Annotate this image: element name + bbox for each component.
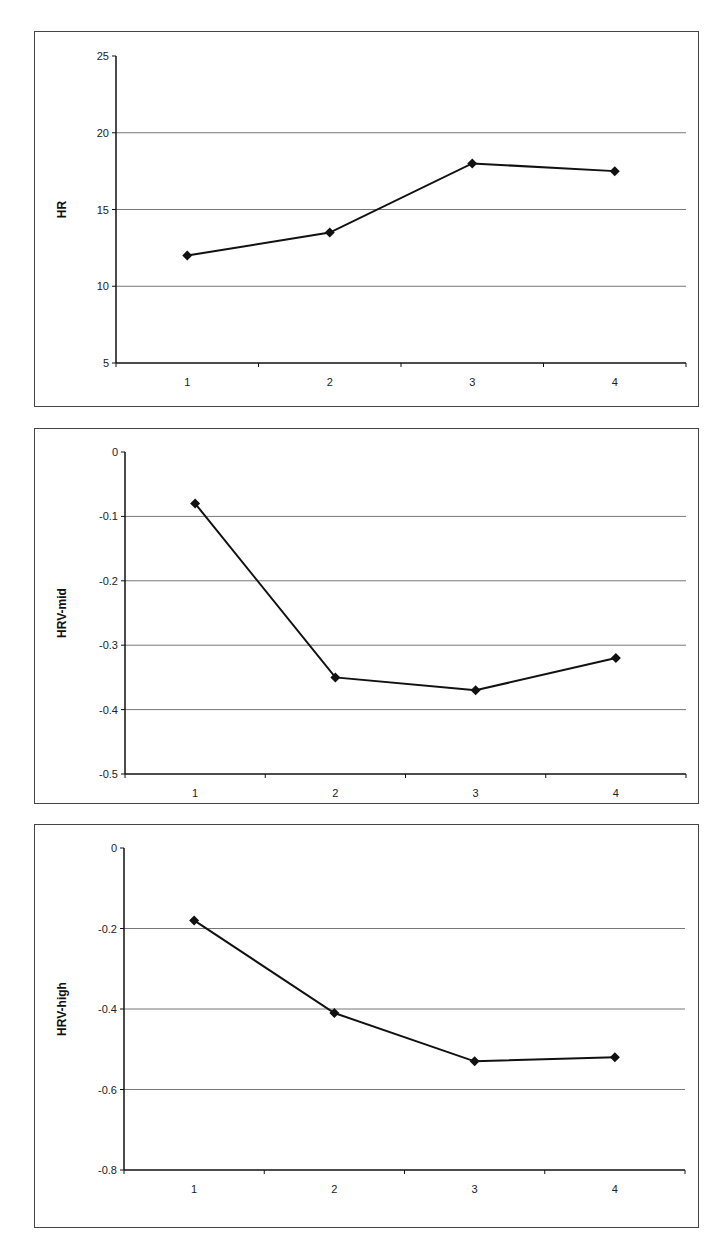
y-tick-label: -0.2 <box>99 575 118 587</box>
diamond-marker-icon <box>610 166 620 176</box>
y-tick-label: -0.4 <box>99 704 118 716</box>
diamond-marker-icon <box>325 228 335 238</box>
y-tick-label: 10 <box>97 280 109 292</box>
chart-hrv-high: -0.8-0.6-0.4-0.201234HRV-high <box>35 825 700 1229</box>
x-tick-label: 2 <box>332 787 338 799</box>
chart-hrv-mid: -0.5-0.4-0.3-0.2-0.101234HRV-mid <box>35 429 700 805</box>
y-tick-label: -0.2 <box>98 923 117 935</box>
x-tick-label: 1 <box>184 376 190 388</box>
y-tick-label: 25 <box>97 50 109 62</box>
y-tick-label: -0.3 <box>99 639 118 651</box>
chart-hrv-high-frame: -0.8-0.6-0.4-0.201234HRV-high <box>34 824 699 1228</box>
y-tick-label: -0.4 <box>98 1003 117 1015</box>
x-tick-label: 3 <box>472 1183 478 1195</box>
y-axis-label: HR <box>55 201 69 219</box>
diamond-marker-icon <box>471 685 481 695</box>
x-tick-label: 1 <box>191 1183 197 1195</box>
x-tick-label: 1 <box>192 787 198 799</box>
x-tick-label: 3 <box>469 376 475 388</box>
chart-hr-frame: 5101520251234HR <box>34 31 699 407</box>
series-line <box>194 920 615 1061</box>
chart-hr: 5101520251234HR <box>35 32 700 408</box>
x-tick-label: 4 <box>612 376 618 388</box>
y-tick-label: 5 <box>103 357 109 369</box>
y-tick-label: 0 <box>111 842 117 854</box>
diamond-marker-icon <box>470 1056 480 1066</box>
x-tick-label: 4 <box>613 787 619 799</box>
x-tick-label: 4 <box>612 1183 618 1195</box>
x-tick-label: 3 <box>473 787 479 799</box>
x-tick-label: 2 <box>327 376 333 388</box>
diamond-marker-icon <box>467 158 477 168</box>
y-axis-label: HRV-high <box>55 982 69 1036</box>
y-tick-label: -0.8 <box>98 1164 117 1176</box>
y-tick-label: -0.1 <box>99 510 118 522</box>
x-tick-label: 2 <box>331 1183 337 1195</box>
y-axis-label: HRV-mid <box>55 588 69 638</box>
y-tick-label: 15 <box>97 204 109 216</box>
chart-hrv-mid-frame: -0.5-0.4-0.3-0.2-0.101234HRV-mid <box>34 428 699 804</box>
diamond-marker-icon <box>611 653 621 663</box>
y-tick-label: -0.6 <box>98 1084 117 1096</box>
y-tick-label: 0 <box>112 446 118 458</box>
diamond-marker-icon <box>182 251 192 261</box>
diamond-marker-icon <box>610 1052 620 1062</box>
y-tick-label: -0.5 <box>99 768 118 780</box>
series-line <box>195 504 616 691</box>
y-tick-label: 20 <box>97 127 109 139</box>
